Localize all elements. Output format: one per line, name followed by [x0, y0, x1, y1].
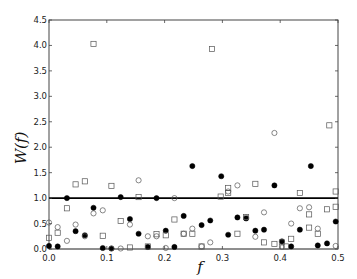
- data-point: [208, 218, 213, 223]
- data-point: [226, 232, 231, 237]
- data-point: [315, 243, 320, 248]
- x-tick-label: 0.4: [273, 253, 287, 263]
- data-point: [73, 229, 78, 234]
- data-point: [289, 244, 294, 249]
- data-point: [272, 183, 277, 188]
- data-point: [118, 194, 123, 199]
- data-point: [219, 174, 224, 179]
- data-point: [64, 196, 69, 201]
- data-point: [324, 241, 329, 246]
- plot-area: [49, 20, 338, 249]
- y-tick-label: 4.5: [33, 15, 47, 25]
- data-point: [308, 163, 313, 168]
- y-tick-label: 2.5: [33, 117, 47, 127]
- data-point: [235, 215, 240, 220]
- x-tick-label: 0.2: [158, 253, 172, 263]
- x-tick-label: 0.5: [331, 253, 345, 263]
- data-point: [261, 227, 266, 232]
- x-tick-label: 0.3: [216, 253, 230, 263]
- data-point: [190, 163, 195, 168]
- data-point: [46, 243, 51, 248]
- y-tick-label: 1.0: [33, 193, 47, 203]
- y-tick-label: 3.0: [33, 91, 47, 101]
- data-point: [127, 216, 132, 221]
- x-tick-label: 0.1: [100, 253, 114, 263]
- data-point: [181, 213, 186, 218]
- data-point: [253, 228, 258, 233]
- y-tick-label: 1.5: [33, 168, 47, 178]
- data-point: [154, 196, 159, 201]
- y-tick-label: 3.5: [33, 66, 47, 76]
- data-point: [55, 244, 60, 249]
- scatter-chart: 0.00.51.01.52.02.53.03.54.04.5 0.00.10.2…: [0, 0, 357, 279]
- data-point: [199, 222, 204, 227]
- data-point: [91, 205, 96, 210]
- y-tick-label: 4.0: [33, 40, 47, 50]
- x-tick-label: 0.0: [42, 253, 56, 263]
- y-tick-label: 0.5: [33, 219, 47, 229]
- data-point: [172, 244, 177, 249]
- data-point: [333, 219, 338, 224]
- y-axis-label: W(f): [12, 132, 30, 165]
- y-tick-label: 2.0: [33, 142, 47, 152]
- x-axis-label: f: [196, 258, 205, 276]
- data-point: [136, 231, 141, 236]
- data-point: [297, 227, 302, 232]
- data-point: [100, 245, 105, 250]
